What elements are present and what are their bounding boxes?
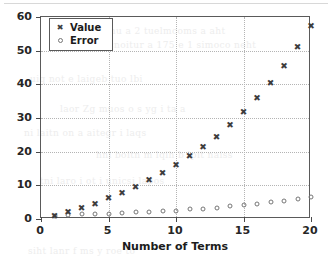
x-marker-icon: ✖ <box>53 24 67 32</box>
data-point-value: ✖ <box>145 176 153 185</box>
plot-area: ✖✖✖✖✖✖✖✖✖✖✖✖✖✖✖✖✖✖✖✖ ✖ Value Error <box>40 16 310 218</box>
data-point-value: ✖ <box>132 182 140 191</box>
x-axis-tick <box>244 217 245 222</box>
data-point-error <box>214 205 219 210</box>
data-point-value: ✖ <box>186 152 194 161</box>
data-point-error <box>147 209 152 214</box>
legend-entry-value: ✖ Value <box>53 21 109 34</box>
data-point-error <box>93 211 98 216</box>
x-axis-tick <box>176 217 177 222</box>
data-point-error <box>133 210 138 215</box>
data-point-error <box>201 206 206 211</box>
y-axis-tick-label: 20 <box>0 146 32 157</box>
data-point-value: ✖ <box>172 161 180 170</box>
data-point-value: ✖ <box>78 204 86 213</box>
circle-marker-icon <box>53 38 67 43</box>
legend-label-value: Value <box>67 23 101 33</box>
x-axis-tick-label: 0 <box>25 225 55 236</box>
gridline-horizontal <box>41 185 309 186</box>
data-point-value: ✖ <box>91 199 99 208</box>
y-axis-tick <box>36 118 41 119</box>
chart-legend: ✖ Value Error <box>49 18 113 51</box>
data-point-error <box>174 208 179 213</box>
data-point-error <box>241 202 246 207</box>
y-axis-tick <box>36 185 41 186</box>
data-point-value: ✖ <box>213 132 221 141</box>
data-point-value: ✖ <box>226 121 234 130</box>
data-point-value: ✖ <box>64 208 72 217</box>
y-axis-tick-label: 50 <box>0 45 32 56</box>
data-point-error <box>268 200 273 205</box>
gridline-horizontal <box>41 152 309 153</box>
y-axis-tick-label: 40 <box>0 78 32 89</box>
data-point-value: ✖ <box>199 142 207 151</box>
data-point-error <box>255 201 260 206</box>
data-point-value: ✖ <box>105 194 113 203</box>
legend-entry-error: Error <box>53 34 109 47</box>
data-point-value: ✖ <box>280 62 288 71</box>
data-point-value: ✖ <box>51 211 59 220</box>
x-axis-tick-label: 15 <box>228 225 258 236</box>
y-axis-tick <box>36 84 41 85</box>
y-axis-tick-label: 0 <box>0 213 32 224</box>
x-axis-tick-label: 5 <box>93 225 123 236</box>
data-point-error <box>187 207 192 212</box>
y-axis-tick-label: 60 <box>0 11 32 22</box>
gridline-horizontal <box>41 118 309 119</box>
y-axis-tick <box>36 152 41 153</box>
y-axis-tick-label: 10 <box>0 179 32 190</box>
data-point-error <box>228 204 233 209</box>
gridline-vertical <box>176 17 177 217</box>
data-point-error <box>295 197 300 202</box>
x-axis-tick-label: 10 <box>160 225 190 236</box>
y-axis-tick <box>36 51 41 52</box>
data-point-value: ✖ <box>118 189 126 198</box>
y-axis-tick <box>36 17 41 18</box>
x-axis-tick <box>311 217 312 222</box>
data-point-error <box>106 211 111 216</box>
legend-label-error: Error <box>67 36 99 46</box>
data-point-error <box>309 195 314 200</box>
data-point-value: ✖ <box>159 169 167 178</box>
data-point-error <box>282 198 287 203</box>
x-axis-title: Number of Terms <box>40 240 310 253</box>
y-axis-tick-label: 30 <box>0 112 32 123</box>
data-point-value: ✖ <box>267 78 275 87</box>
gridline-vertical <box>244 17 245 217</box>
data-point-value: ✖ <box>294 43 302 52</box>
data-point-error <box>160 209 165 214</box>
data-point-value: ✖ <box>240 108 248 117</box>
data-point-error <box>120 210 125 215</box>
x-axis-tick <box>41 217 42 222</box>
x-axis-tick-label: 20 <box>295 225 325 236</box>
x-axis-tick <box>109 217 110 222</box>
data-point-value: ✖ <box>253 94 261 103</box>
scan-artifact-rule <box>4 3 328 4</box>
scatter-chart-figure: rasnoitsnu a 2 tuelmcoms a ahtprecnoitur… <box>0 0 332 264</box>
data-point-value: ✖ <box>307 22 315 31</box>
